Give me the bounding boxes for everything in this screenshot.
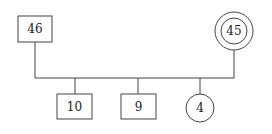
mother-node: 45: [215, 12, 253, 50]
child1-age-label: 10: [67, 100, 82, 114]
child3-node: 4: [186, 94, 214, 122]
child2-node: 9: [121, 94, 156, 119]
child2-age-label: 9: [135, 100, 143, 114]
father-node: 46: [18, 16, 52, 42]
mother-age-label: 45: [226, 24, 241, 38]
child1-node: 10: [57, 94, 92, 119]
genogram-diagram: 46 45 10 9 4: [0, 0, 272, 134]
child3-age-label: 4: [196, 101, 204, 115]
father-age-label: 46: [27, 22, 42, 36]
